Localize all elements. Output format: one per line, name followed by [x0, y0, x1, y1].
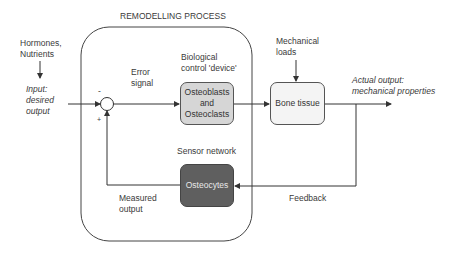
- plus-sign: +: [97, 114, 101, 125]
- error-signal-label: Error signal: [131, 67, 153, 89]
- controller-caption: Biological control 'device': [181, 52, 237, 74]
- actual-output-label: Actual output: mechanical properties: [352, 75, 435, 97]
- title: REMODELLING PROCESS: [120, 11, 226, 22]
- bone-tissue-label: Bone tissue: [275, 98, 319, 109]
- osteocytes-label: Osteocytes: [186, 180, 229, 191]
- osteoblasts-osteoclasts-label: Osteoblasts and Osteoclasts: [185, 87, 230, 120]
- diagram-lines: [0, 0, 452, 259]
- input-desired-output-label: Input: desired output: [26, 84, 54, 117]
- osteoblasts-osteoclasts-box: Osteoblasts and Osteoclasts: [180, 82, 234, 125]
- bone-tissue-box: Bone tissue: [270, 82, 325, 125]
- mechanical-loads-label: Mechanical loads: [276, 36, 319, 58]
- osteocytes-box: Osteocytes: [180, 164, 234, 207]
- sensor-network-caption: Sensor network: [177, 146, 236, 157]
- minus-sign: -: [98, 86, 101, 97]
- measured-output-label: Measured output: [119, 193, 157, 215]
- hormones-nutrients-label: Hormones, Nutrients: [20, 38, 62, 60]
- feedback-label: Feedback: [289, 193, 326, 204]
- summing-junction: [101, 98, 114, 111]
